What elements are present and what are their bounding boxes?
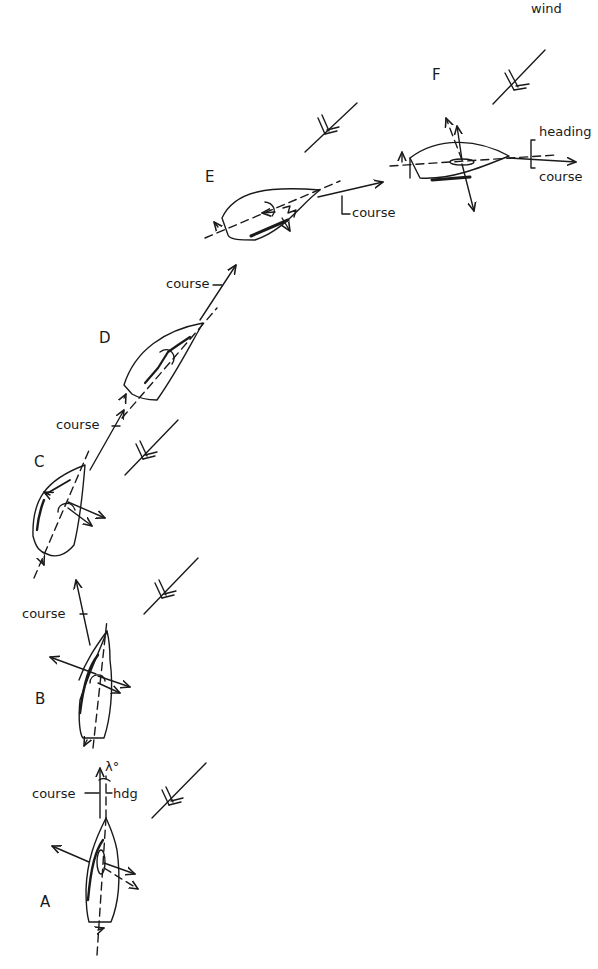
- position-c-label: C: [34, 455, 44, 470]
- position-b-label: B: [35, 692, 45, 707]
- f-heading-label: heading: [539, 125, 592, 138]
- position-f-label: F: [432, 68, 441, 83]
- position-e-label: E: [205, 170, 214, 185]
- a-hdg-label: hdg: [113, 787, 138, 800]
- e-course-label: course: [352, 206, 395, 219]
- wind-label: wind: [531, 2, 562, 15]
- wind-arrow-b: [144, 558, 198, 614]
- c-course-label: course: [56, 418, 99, 431]
- boat-c: [33, 410, 124, 578]
- b-course-label: course: [22, 607, 65, 620]
- a-lambda-label: λ°: [105, 760, 119, 773]
- wind-arrow-e: [305, 103, 357, 152]
- position-d-label: D: [99, 331, 111, 346]
- wind-arrow-a: [152, 763, 206, 818]
- a-course-label: course: [32, 787, 75, 800]
- diagram-drawing: [0, 0, 598, 969]
- d-course-label: course: [166, 277, 209, 290]
- wind-arrow-c: [125, 420, 178, 475]
- position-a-label: A: [40, 895, 50, 910]
- f-course-label: course: [539, 170, 582, 183]
- wind-arrow-top: [493, 50, 545, 104]
- sailing-diagram: wind F heading course E course course D …: [0, 0, 598, 969]
